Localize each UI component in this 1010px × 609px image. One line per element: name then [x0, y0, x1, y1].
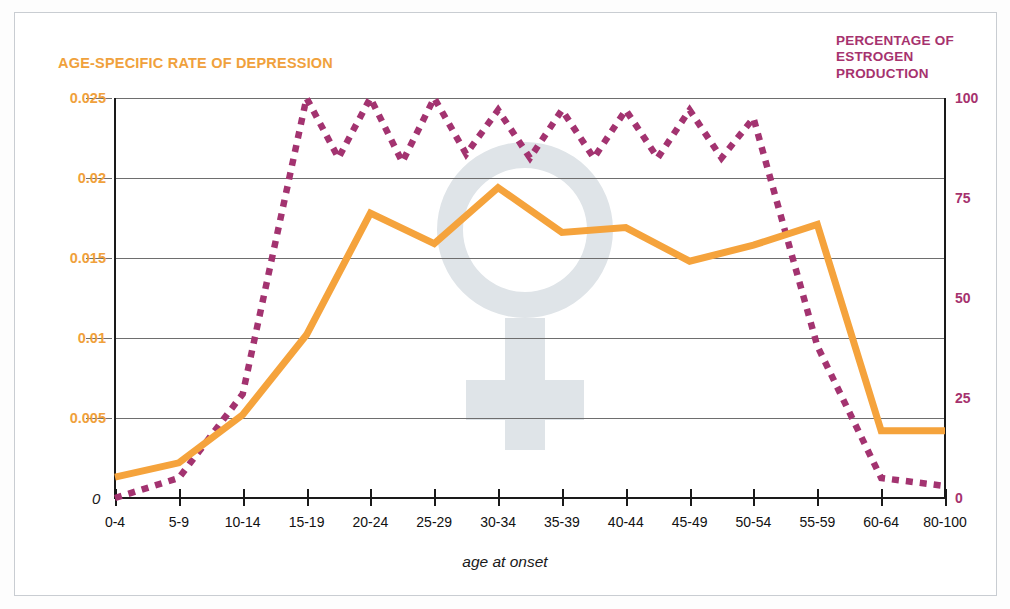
- x-axis-title: age at onset: [0, 553, 1010, 571]
- depression-rate-line: [115, 188, 945, 478]
- chart-page: AGE-SPECIFIC RATE OF DEPRESSION PERCENTA…: [0, 0, 1010, 609]
- estrogen-production-line: [115, 98, 945, 498]
- series-layer: [0, 0, 1010, 609]
